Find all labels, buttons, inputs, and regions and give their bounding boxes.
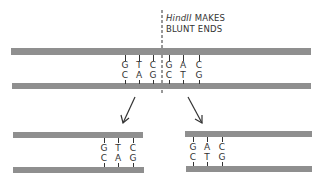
right-fragment-bottom-strand: [186, 166, 312, 172]
left-arrow-icon: [121, 97, 135, 123]
base: A: [134, 71, 144, 80]
base: C: [217, 143, 227, 152]
base: G: [120, 61, 130, 70]
base: G: [148, 71, 158, 80]
left-fragment-bottom-strand: [13, 167, 144, 173]
right-fragment-top-strand: [185, 131, 312, 137]
base: C: [128, 144, 138, 153]
uncut-bottom-strand: [12, 83, 311, 89]
annotation-line2: BLUNT ENDS: [166, 24, 225, 35]
enzyme-name: HindII: [166, 13, 192, 23]
base: A: [202, 143, 212, 152]
left-fragment-top-strand: [13, 132, 143, 138]
base: T: [178, 71, 188, 80]
base: G: [194, 71, 204, 80]
annotation-label: HindII MAKES BLUNT ENDS: [166, 13, 225, 35]
base: G: [128, 154, 138, 163]
base: C: [164, 71, 174, 80]
base: T: [134, 61, 144, 70]
base: T: [202, 153, 212, 162]
base: C: [148, 61, 158, 70]
base: C: [188, 153, 198, 162]
uncut-top-strand: [11, 48, 311, 55]
base: G: [164, 61, 174, 70]
base: C: [194, 61, 204, 70]
base: G: [99, 144, 109, 153]
base: G: [188, 143, 198, 152]
base: A: [113, 154, 123, 163]
base: T: [113, 144, 123, 153]
base: C: [99, 154, 109, 163]
base: A: [178, 61, 188, 70]
annotation-line1: MAKES: [192, 13, 225, 23]
base: G: [217, 153, 227, 162]
right-arrow-icon: [188, 97, 202, 123]
diagram-lines: [0, 0, 327, 185]
base: C: [120, 71, 130, 80]
